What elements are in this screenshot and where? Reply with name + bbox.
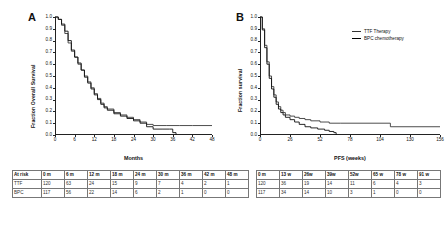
panel-a-risk-table: At risk0 m6 m12 m18 m24 m30 m36 m42 m48 …: [12, 170, 249, 198]
table-cell: 0: [203, 189, 226, 198]
table-header-cell: 18 m: [111, 171, 134, 180]
panel-a-x-axis-label: Months: [55, 156, 212, 161]
table-cell: 0: [395, 189, 418, 198]
table-cell: 11: [349, 180, 372, 189]
table-cell: 56: [65, 189, 88, 198]
table-cell: 120: [257, 180, 280, 189]
table-row: 12036191411643: [257, 180, 441, 189]
table-cell: 3: [418, 180, 441, 189]
table-cell: 4: [180, 180, 203, 189]
legend-swatch-ttf: [352, 31, 361, 32]
table-cell: 9: [134, 180, 157, 189]
table-cell: 34: [280, 189, 303, 198]
panel-a: A Fraction Overall Survival 1.00.90.80.7…: [0, 0, 224, 155]
table-header-cell: 30 m: [157, 171, 180, 180]
table-cell: BPC: [13, 189, 42, 198]
figure-canvas: A Fraction Overall Survival 1.00.90.80.7…: [0, 0, 448, 227]
table-cell: 2: [157, 189, 180, 198]
table-cell: 1: [372, 189, 395, 198]
table-cell: 22: [88, 189, 111, 198]
survival-curve-ttf: [55, 17, 212, 126]
table-header-cell: 48 m: [226, 171, 249, 180]
legend-swatch-bpc: [352, 38, 361, 39]
table-header-cell: 26w: [303, 171, 326, 180]
table-header-cell: 39w: [326, 171, 349, 180]
table-cell: 2: [203, 180, 226, 189]
table-header-cell: 0 m: [257, 171, 280, 180]
table-cell: 0: [418, 189, 441, 198]
table-header-cell: 6 m: [65, 171, 88, 180]
table-header-cell: 12 m: [88, 171, 111, 180]
table-cell: TTF: [13, 180, 42, 189]
panel-b: B Fraction survival 1.00.90.80.70.60.50.…: [224, 0, 448, 155]
table-cell: 4: [395, 180, 418, 189]
table-cell: 6: [134, 189, 157, 198]
panel-b-legend: TTF Therapy BPC chemotherapy: [352, 28, 404, 42]
legend-item-ttf: TTF Therapy: [352, 28, 404, 35]
legend-item-bpc: BPC chemotherapy: [352, 35, 404, 42]
panel-b-survival-curves: [224, 0, 448, 155]
table-cell: 10: [326, 189, 349, 198]
table-cell: 24: [88, 180, 111, 189]
table-header-row: At risk0 m6 m12 m18 m24 m30 m36 m42 m48 …: [13, 171, 249, 180]
survival-curve-ttf: [260, 17, 440, 127]
table-cell: 14: [303, 189, 326, 198]
table-cell: 15: [111, 180, 134, 189]
table-cell: 63: [65, 180, 88, 189]
table-header-cell: 13 w: [280, 171, 303, 180]
table-cell: 117: [42, 189, 65, 198]
table-row: BPC11756221462100: [13, 189, 249, 198]
table-header-cell: 36 m: [180, 171, 203, 180]
table-cell: 120: [42, 180, 65, 189]
table-cell: 3: [349, 189, 372, 198]
table-header-cell: 78 w: [395, 171, 418, 180]
table-cell: 0: [226, 189, 249, 198]
table-row: TTF12063241597421: [13, 180, 249, 189]
panel-b-risk-table: 0 m13 w26w39w52w65 w78 w91 w120361914116…: [256, 170, 441, 198]
table-cell: 14: [111, 189, 134, 198]
table-cell: 1: [226, 180, 249, 189]
table-header-cell: 42 m: [203, 171, 226, 180]
table-cell: 6: [372, 180, 395, 189]
table-cell: 117: [257, 189, 280, 198]
table-cell: 1: [180, 189, 203, 198]
legend-label-bpc: BPC chemotherapy: [364, 35, 404, 42]
table-cell: 36: [280, 180, 303, 189]
panel-a-survival-curves: [0, 0, 224, 155]
table-header-row: 0 m13 w26w39w52w65 w78 w91 w: [257, 171, 441, 180]
table-cell: 19: [303, 180, 326, 189]
table-header-cell: 65 w: [372, 171, 395, 180]
table-header-cell: 52w: [349, 171, 372, 180]
table-row: 1173414103100: [257, 189, 441, 198]
table-cell: 14: [326, 180, 349, 189]
panel-b-x-axis-label: PFS (weeks): [260, 156, 440, 161]
table-cell: 7: [157, 180, 180, 189]
table-header-cell: 0 m: [42, 171, 65, 180]
legend-label-ttf: TTF Therapy: [364, 28, 390, 35]
table-header-cell: 24 m: [134, 171, 157, 180]
table-header-cell: 91 w: [418, 171, 441, 180]
survival-curve-bpc: [55, 17, 176, 135]
table-header-cell: At risk: [13, 171, 42, 180]
